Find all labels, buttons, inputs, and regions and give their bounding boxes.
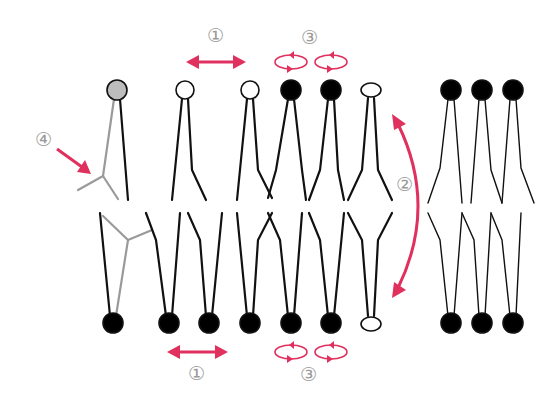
lipid-top-1 <box>78 99 128 200</box>
lipid-top-2 <box>172 99 206 200</box>
lateral-diffusion-top-double-arrow-icon <box>186 55 246 69</box>
head-filled-icon <box>472 313 492 333</box>
head-filled-icon <box>503 80 523 100</box>
head-filled-icon <box>503 313 523 333</box>
lipid-bottom-right-group <box>428 213 521 316</box>
lipid-bottom-4 <box>237 213 272 316</box>
head-filled-icon <box>240 313 260 333</box>
label-rotation-top: ③ <box>301 28 318 47</box>
rotation-top-icons <box>275 51 347 73</box>
top-heads <box>107 80 523 100</box>
head-filled-icon <box>321 313 341 333</box>
insertion-arrow-icon <box>57 149 91 174</box>
flip-flop-curved-double-arrow-icon <box>392 114 418 298</box>
head-filled-icon <box>472 80 492 100</box>
top-leaflet <box>78 98 534 203</box>
head-filled-icon <box>321 80 341 100</box>
bottom-heads <box>103 313 523 333</box>
lipid-top-4 <box>268 99 306 200</box>
head-filled-icon <box>281 80 301 100</box>
lipid-bottom-3 <box>188 213 222 316</box>
lipid-bottom-5 <box>268 213 302 316</box>
lipid-bottom-7 <box>348 213 392 316</box>
head-filled-icon <box>441 80 461 100</box>
label-lateral-diffusion-bottom: ① <box>188 364 205 383</box>
label-inserted-molecule: ④ <box>35 130 52 149</box>
label-lateral-diffusion-top: ① <box>207 26 224 45</box>
head-open-oval-icon <box>361 317 381 331</box>
head-filled-icon <box>281 313 301 333</box>
lipid-top-5 <box>309 99 344 200</box>
lipid-bottom-1 <box>100 213 152 316</box>
lipid-top-right-group <box>428 99 534 203</box>
head-open-icon <box>241 81 259 99</box>
label-flip-flop: ② <box>396 175 413 194</box>
lateral-diffusion-bottom-double-arrow-icon <box>167 345 228 359</box>
head-open-oval-icon <box>361 83 381 97</box>
rotation-bottom-icons <box>275 341 347 363</box>
head-filled-icon <box>159 313 179 333</box>
head-open-icon <box>176 81 194 99</box>
lipid-top-6 <box>348 98 392 200</box>
head-filled-icon <box>199 313 219 333</box>
bottom-leaflet <box>100 213 521 316</box>
label-rotation-bottom: ③ <box>300 365 317 384</box>
head-filled-icon <box>441 313 461 333</box>
lipid-bottom-2 <box>146 213 180 316</box>
head-filled-icon <box>103 313 123 333</box>
lipid-bilayer-diagram <box>0 0 551 407</box>
head-gray-icon <box>107 80 127 100</box>
lipid-bottom-6 <box>309 213 344 316</box>
lipid-top-3 <box>237 99 272 200</box>
